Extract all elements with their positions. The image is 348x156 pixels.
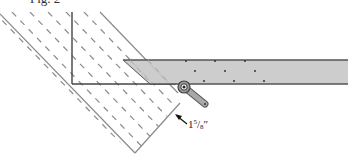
dimension-label: 15/8″ xyxy=(188,118,208,131)
fence-bar xyxy=(123,60,348,84)
woodworking-diagram xyxy=(0,0,348,156)
dimension-arrow-icon xyxy=(175,114,187,124)
dimension-numerator: 5 xyxy=(194,118,198,126)
dimension-unit: ″ xyxy=(204,118,209,130)
